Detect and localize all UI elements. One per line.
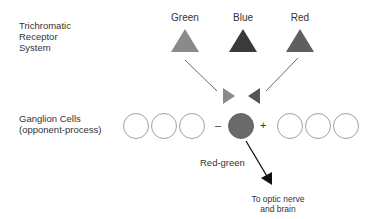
label-line: and brain — [238, 204, 318, 214]
output-arrow-line — [246, 141, 268, 178]
ganglion-cell — [152, 114, 177, 139]
red-input-triangle — [248, 88, 260, 104]
blue-receptor-triangle — [229, 29, 257, 52]
ganglion-cell — [180, 114, 205, 139]
green-receptor-triangle — [171, 29, 199, 52]
minus-sign: – — [215, 120, 221, 131]
green-connection-line — [185, 60, 217, 91]
destination-label: To optic nerve and brain — [238, 194, 318, 214]
diagram-canvas — [0, 0, 373, 219]
red-connection-line — [266, 58, 298, 91]
output-arrow-head — [261, 172, 272, 185]
ganglion-cell — [334, 114, 359, 139]
ganglion-cell — [124, 114, 149, 139]
red-receptor-triangle — [286, 29, 314, 52]
red-green-channel-label: Red-green — [200, 157, 245, 168]
label-line: To optic nerve — [238, 194, 318, 204]
green-input-triangle — [223, 88, 235, 104]
plus-sign: + — [260, 120, 266, 131]
ganglion-cell — [278, 114, 303, 139]
ganglion-cell-active — [229, 114, 254, 139]
ganglion-cell — [306, 114, 331, 139]
